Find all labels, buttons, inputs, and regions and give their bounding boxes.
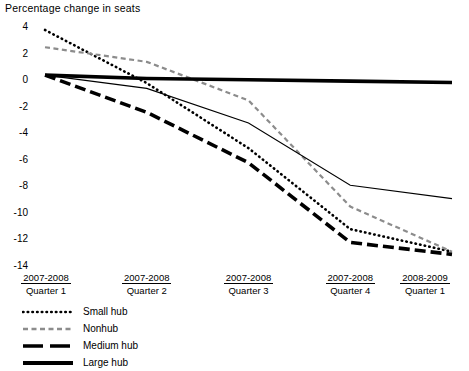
series-line-unlabeled-thin-line (45, 75, 452, 198)
chart-container: Percentage change in seats 420-2-4-6-8-1… (0, 0, 469, 371)
legend-item-large-hub: Large hub (22, 354, 138, 371)
series-line-small-hub (45, 30, 452, 252)
series-line-medium-hub (45, 75, 452, 254)
legend-item-medium-hub: Medium hub (22, 337, 138, 354)
legend-swatch-small-hub (22, 306, 74, 318)
chart-legend: Small hub Nonhub Medium hub Large hub (22, 303, 138, 371)
legend-item-small-hub: Small hub (22, 303, 138, 320)
legend-label-small-hub: Small hub (83, 306, 127, 317)
legend-swatch-large-hub (22, 357, 74, 369)
legend-label-medium-hub: Medium hub (83, 340, 138, 351)
legend-item-nonhub: Nonhub (22, 320, 138, 337)
series-line-large-hub (45, 75, 452, 82)
legend-swatch-medium-hub (22, 340, 74, 352)
legend-swatch-nonhub (22, 323, 74, 335)
legend-label-large-hub: Large hub (83, 357, 128, 368)
legend-label-nonhub: Nonhub (83, 323, 118, 334)
